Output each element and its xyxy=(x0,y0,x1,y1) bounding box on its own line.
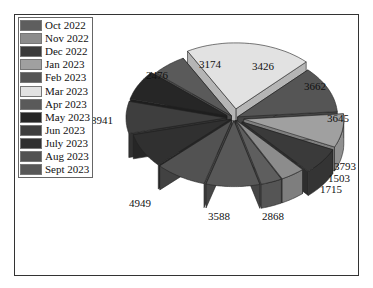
legend-label: Aug 2023 xyxy=(45,150,89,163)
legend-item-nov-2022: Nov 2022 xyxy=(20,32,92,45)
legend-label: Dec 2022 xyxy=(45,45,87,58)
legend-label: July 2023 xyxy=(45,137,88,150)
legend-item-sept-2023: Sept 2023 xyxy=(20,163,92,176)
data-label: 4949 xyxy=(129,197,152,209)
legend-swatch xyxy=(20,112,42,123)
legend-label: Jun 2023 xyxy=(45,124,85,137)
legend-swatch xyxy=(20,164,42,175)
legend-label: May 2023 xyxy=(45,111,90,124)
data-label: 2476 xyxy=(146,69,169,81)
legend-item-aug-2023: Aug 2023 xyxy=(20,150,92,163)
legend-label: Oct 2022 xyxy=(45,19,86,32)
legend-item-jun-2023: Jun 2023 xyxy=(20,124,92,137)
legend-swatch xyxy=(20,72,42,83)
legend-item-feb-2023: Feb 2023 xyxy=(20,71,92,84)
legend-item-mar-2023: Mar 2023 xyxy=(20,84,92,97)
data-label: 3426 xyxy=(252,60,275,72)
legend: Oct 2022 Nov 2022 Dec 2022 Jan 2023 Feb … xyxy=(18,17,93,178)
legend-item-july-2023: July 2023 xyxy=(20,137,92,150)
legend-item-apr-2023: Apr 2023 xyxy=(20,98,92,111)
data-label: 1715 xyxy=(320,183,343,195)
legend-swatch xyxy=(20,99,42,110)
data-label: 3588 xyxy=(208,210,231,222)
legend-swatch xyxy=(20,86,42,97)
legend-swatch xyxy=(20,20,42,31)
legend-swatch xyxy=(20,138,42,149)
legend-swatch xyxy=(20,46,42,57)
data-label: 2868 xyxy=(262,210,285,222)
legend-label: Jan 2023 xyxy=(45,58,84,71)
data-label: 3793 xyxy=(334,160,357,172)
legend-item-jan-2023: Jan 2023 xyxy=(20,58,92,71)
legend-item-may-2023: May 2023 xyxy=(20,111,92,124)
legend-swatch xyxy=(20,125,42,136)
data-label: 3662 xyxy=(304,80,326,92)
legend-item-oct-2022: Oct 2022 xyxy=(20,19,92,32)
legend-swatch xyxy=(20,151,42,162)
data-label: 3645 xyxy=(327,112,350,124)
data-label: 3174 xyxy=(199,58,222,70)
legend-label: Sept 2023 xyxy=(45,163,89,176)
legend-label: Apr 2023 xyxy=(45,98,87,111)
legend-swatch xyxy=(20,59,42,70)
data-label: 8941 xyxy=(91,114,113,126)
legend-label: Feb 2023 xyxy=(45,71,86,84)
legend-label: Mar 2023 xyxy=(45,85,88,98)
legend-item-dec-2022: Dec 2022 xyxy=(20,45,92,58)
legend-swatch xyxy=(20,33,42,44)
legend-label: Nov 2022 xyxy=(45,32,89,45)
